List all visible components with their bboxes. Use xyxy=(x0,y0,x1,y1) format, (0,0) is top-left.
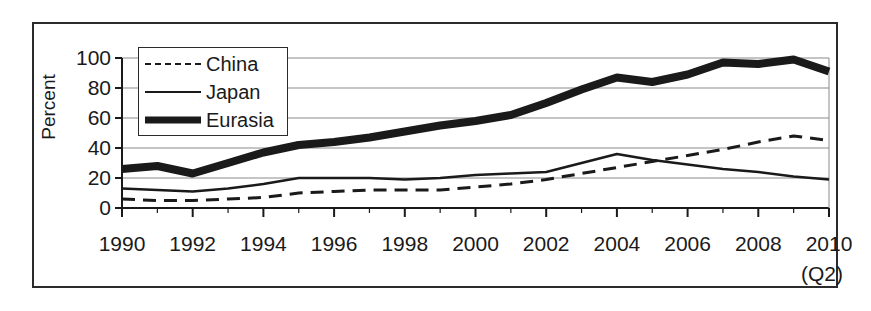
legend-label-japan: Japan xyxy=(206,82,261,102)
legend-label-eurasia: Eurasia xyxy=(206,110,274,130)
y-tick-label: 60 xyxy=(55,107,111,128)
y-tick-label: 0 xyxy=(55,197,111,218)
y-tick-label: 100 xyxy=(55,47,111,68)
x-tick-label: 2006 xyxy=(653,233,723,254)
legend-label-china: China xyxy=(206,54,258,74)
y-tick-label: 40 xyxy=(55,137,111,158)
x-tick-label: 2008 xyxy=(723,233,793,254)
y-tick-label: 20 xyxy=(55,167,111,188)
chart-legend: China Japan Eurasia xyxy=(138,47,288,136)
x-tick-label: 2004 xyxy=(582,233,652,254)
thin-line-swatch xyxy=(145,85,201,99)
dashed-line-swatch xyxy=(145,57,201,71)
x-tick-label: 2002 xyxy=(511,233,581,254)
x-tick-label: 1992 xyxy=(158,233,228,254)
x-tick-label: 2000 xyxy=(441,233,511,254)
x-tick-label: 1998 xyxy=(370,233,440,254)
x-tick-label: 1996 xyxy=(299,233,369,254)
x-tick-label: 1990 xyxy=(87,233,157,254)
chart-figure: Percent 020406080100 1990199219941996199… xyxy=(0,0,871,311)
thick-line-swatch xyxy=(145,113,201,127)
x-axis-note: (Q2) xyxy=(801,263,843,284)
legend-item-japan: Japan xyxy=(145,77,287,106)
x-tick-label: 1994 xyxy=(228,233,298,254)
x-tick-label: 2010 xyxy=(794,233,864,254)
legend-item-eurasia: Eurasia xyxy=(145,105,287,134)
y-tick-label: 80 xyxy=(55,77,111,98)
legend-item-china: China xyxy=(145,49,287,78)
